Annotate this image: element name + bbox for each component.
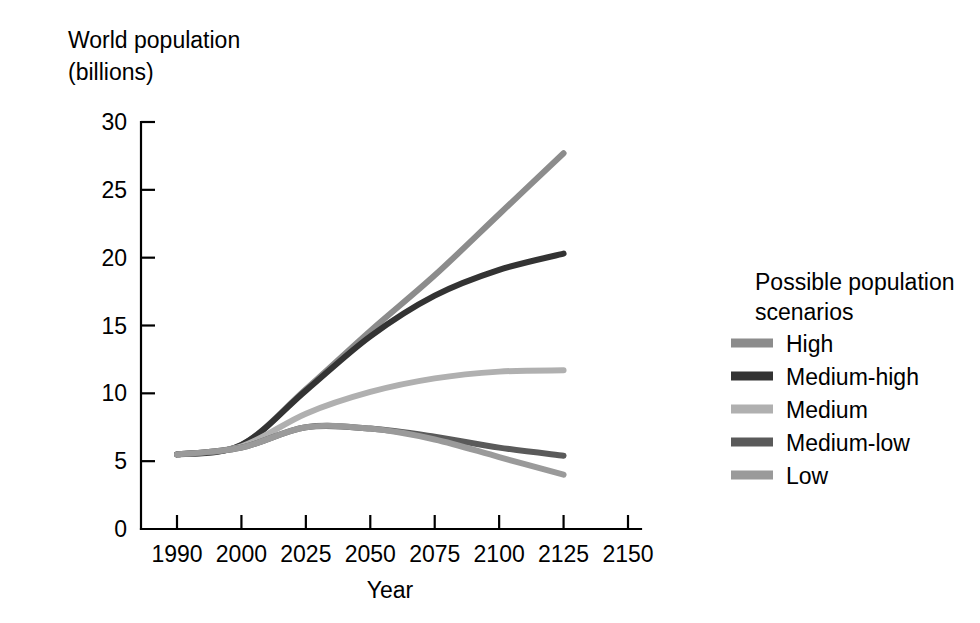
y-tick-label: 5: [114, 448, 127, 474]
legend-label: Low: [786, 463, 829, 489]
chart-canvas: World population (billions) 051015202530…: [0, 0, 980, 623]
x-tick-label: 2000: [216, 541, 267, 567]
y-axis-title-line1: World population: [68, 27, 240, 53]
population-scenarios-figure: World population (billions) 051015202530…: [0, 0, 980, 623]
legend-item[interactable]: Low: [731, 463, 829, 489]
legend-title-line2: scenarios: [755, 299, 853, 325]
legend-label: Medium: [786, 397, 868, 423]
series-line-medium: [177, 370, 564, 454]
y-tick-label: 15: [101, 313, 127, 339]
y-axis-title-group: World population (billions): [68, 27, 240, 85]
legend-item[interactable]: Medium-low: [731, 430, 910, 456]
legend-label: Medium-low: [786, 430, 910, 456]
series-line-high: [177, 153, 564, 454]
legend-label: High: [786, 331, 833, 357]
legend-item[interactable]: High: [731, 331, 833, 357]
y-tick-label: 10: [101, 380, 127, 406]
x-axis-title: Year: [367, 577, 414, 603]
x-tick-label: 2025: [280, 541, 331, 567]
y-tick-label: 30: [101, 109, 127, 135]
legend: Possible population scenarios HighMedium…: [731, 269, 954, 489]
legend-item[interactable]: Medium: [731, 397, 868, 423]
x-tick-label: 2075: [409, 541, 460, 567]
x-tick-label: 2150: [602, 541, 653, 567]
axes: [141, 122, 641, 529]
x-tick-label: 2100: [474, 541, 525, 567]
legend-items: HighMedium-highMediumMedium-lowLow: [731, 331, 919, 489]
legend-item[interactable]: Medium-high: [731, 364, 919, 390]
data-series: [177, 153, 564, 475]
legend-title-line1: Possible population: [755, 269, 954, 295]
x-tick-label: 2125: [538, 541, 589, 567]
y-tick-label: 0: [114, 516, 127, 542]
legend-label: Medium-high: [786, 364, 919, 390]
x-tick-label: 1990: [151, 541, 202, 567]
y-tick-label: 25: [101, 177, 127, 203]
x-tick-labels: 19902000202520502075210021252150: [151, 541, 653, 567]
y-tick-label: 20: [101, 245, 127, 271]
y-tick-labels: 051015202530: [101, 109, 127, 542]
y-axis-title-line2: (billions): [68, 59, 154, 85]
series-line-medium-high: [177, 254, 564, 455]
x-tick-label: 2050: [345, 541, 396, 567]
